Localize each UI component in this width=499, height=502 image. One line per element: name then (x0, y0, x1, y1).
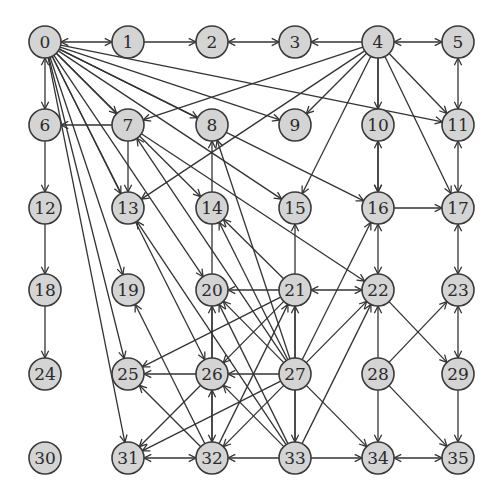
node-label: 27 (284, 364, 306, 384)
edge-7-22 (141, 134, 364, 281)
node-8: 8 (196, 109, 228, 141)
edges-layer (45, 42, 458, 458)
node-label: 23 (447, 280, 469, 300)
edge-4-15 (302, 56, 371, 193)
edge-4-17 (385, 56, 451, 193)
node-11: 11 (442, 109, 474, 141)
node-15: 15 (279, 192, 311, 224)
node-19: 19 (112, 274, 144, 306)
node-13: 13 (112, 192, 144, 224)
node-7: 7 (112, 109, 144, 141)
node-label: 15 (284, 198, 306, 218)
node-label: 34 (367, 448, 389, 468)
edge-0-9 (60, 47, 280, 120)
node-28: 28 (362, 358, 394, 390)
node-label: 7 (123, 115, 134, 135)
node-5: 5 (442, 26, 474, 58)
node-label: 10 (367, 115, 389, 135)
node-4: 4 (362, 26, 394, 58)
node-1: 1 (112, 26, 144, 58)
node-label: 21 (284, 280, 306, 300)
node-35: 35 (442, 442, 474, 474)
node-label: 14 (201, 198, 223, 218)
node-6: 6 (29, 109, 61, 141)
node-31: 31 (112, 442, 144, 474)
node-label: 35 (447, 448, 469, 468)
edge-27-8 (217, 140, 290, 359)
edge-27-14 (219, 222, 288, 359)
node-label: 12 (34, 198, 56, 218)
node-label: 6 (40, 115, 51, 135)
node-label: 28 (367, 364, 389, 384)
node-18: 18 (29, 274, 61, 306)
node-label: 11 (447, 115, 469, 135)
node-label: 32 (201, 448, 223, 468)
node-label: 16 (367, 198, 389, 218)
node-label: 29 (447, 364, 469, 384)
node-22: 22 (362, 274, 394, 306)
node-label: 30 (34, 448, 56, 468)
edge-4-7 (143, 47, 363, 120)
node-label: 1 (123, 32, 134, 52)
node-25: 25 (112, 358, 144, 390)
node-32: 32 (196, 442, 228, 474)
node-label: 25 (117, 364, 139, 384)
node-label: 9 (290, 115, 301, 135)
node-label: 22 (367, 280, 389, 300)
edge-33-22 (302, 304, 371, 443)
node-26: 26 (196, 358, 228, 390)
node-17: 17 (442, 192, 474, 224)
node-9: 9 (279, 109, 311, 141)
node-2: 2 (196, 26, 228, 58)
node-label: 4 (373, 32, 384, 52)
edge-0-31 (48, 58, 125, 443)
node-label: 17 (447, 198, 469, 218)
node-16: 16 (362, 192, 394, 224)
node-24: 24 (29, 358, 61, 390)
node-33: 33 (279, 442, 311, 474)
node-21: 21 (279, 274, 311, 306)
node-label: 31 (117, 448, 139, 468)
node-34: 34 (362, 442, 394, 474)
directed-graph: 0123456789101112131415161718192021222324… (0, 0, 499, 502)
node-23: 23 (442, 274, 474, 306)
edge-0-19 (50, 57, 123, 275)
node-label: 26 (201, 364, 223, 384)
node-14: 14 (196, 192, 228, 224)
node-label: 24 (34, 364, 56, 384)
node-label: 13 (117, 198, 139, 218)
node-29: 29 (442, 358, 474, 390)
node-label: 3 (290, 32, 301, 52)
node-label: 5 (453, 32, 464, 52)
node-label: 19 (117, 280, 139, 300)
node-30: 30 (29, 442, 61, 474)
node-12: 12 (29, 192, 61, 224)
node-label: 0 (40, 32, 51, 52)
node-27: 27 (279, 358, 311, 390)
node-label: 18 (34, 280, 56, 300)
node-0: 0 (29, 26, 61, 58)
node-label: 20 (201, 280, 223, 300)
node-3: 3 (279, 26, 311, 58)
edge-27-16 (302, 222, 371, 359)
edge-28-35 (389, 386, 447, 447)
node-label: 8 (207, 115, 218, 135)
edge-4-13 (141, 51, 364, 199)
node-label: 33 (284, 448, 306, 468)
node-label: 2 (207, 32, 218, 52)
node-20: 20 (196, 274, 228, 306)
node-10: 10 (362, 109, 394, 141)
